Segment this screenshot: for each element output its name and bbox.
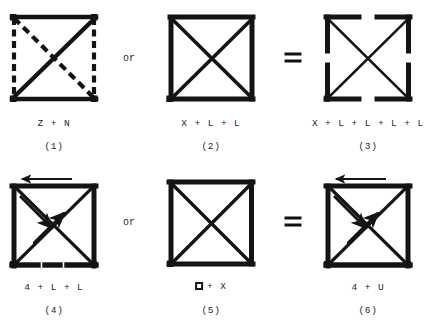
panel-6-corner-br [405, 261, 412, 268]
panel-6-arrow-elbow [348, 228, 366, 243]
panel-3-graphic [324, 17, 410, 102]
panel-1-corner-tl [10, 14, 17, 21]
panel-4-corner-bl [10, 261, 17, 268]
panel-4-diagonal-arrow-down [20, 196, 52, 228]
panel-6-corner-bl [324, 261, 331, 268]
panel-2-graphic [167, 17, 254, 102]
figure-root: or or Z + N (1) X + L + L (2) X + L + L … [0, 0, 442, 333]
panel-6-graphic [324, 179, 411, 268]
panel-4-graphic [10, 179, 97, 268]
panel-4-arrow-elbow [34, 228, 52, 243]
square-decomposition-diagram [0, 0, 442, 333]
panel-5-graphic [167, 182, 253, 267]
panel-1-corner-tr [91, 14, 98, 21]
panel-1-graphic [10, 14, 98, 102]
panel-4-corner-br [91, 261, 98, 268]
panel-1-corner-bl [10, 96, 17, 103]
panel-5-corner-bl [167, 261, 174, 268]
panel-6-diagonal-arrow-down [334, 196, 366, 228]
panel-1-corner-br [91, 96, 98, 103]
panel-2-corner-bl [167, 96, 174, 103]
panel-3-corner-bl [324, 96, 330, 102]
